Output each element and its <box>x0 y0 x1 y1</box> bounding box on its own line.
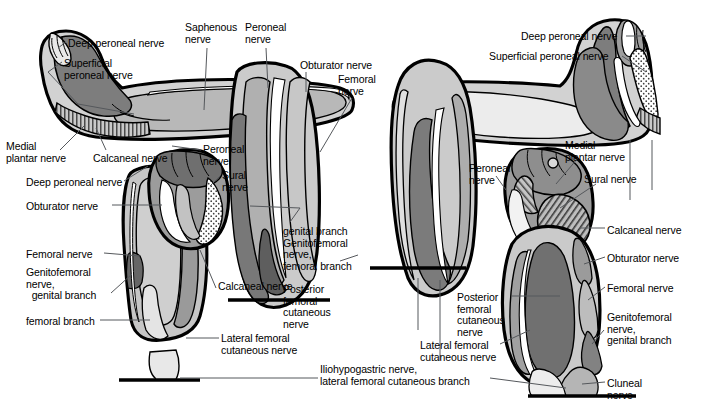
label-peroneal-nerve-top: Peroneal nerve <box>245 22 286 45</box>
label-peroneal-nerve-right: Peroneal nerve <box>469 163 510 186</box>
label-deep-peroneal-nerve-left2: Deep peroneal nerve <box>26 177 122 189</box>
label-femoral-nerve-left: Femoral nerve <box>26 249 92 261</box>
label-peroneal-nerve-mid-left: Peroneal nerve <box>203 144 244 167</box>
right-posterior-femoral-cutaneous-field <box>525 243 574 378</box>
label-medial-plantar-nerve-right: Medial plantar nerve <box>565 140 625 163</box>
right-plantar-great-toe-mark <box>548 158 558 168</box>
label-medial-plantar-nerve-left: Medial plantar nerve <box>6 141 66 164</box>
label-saphenous-nerve: Saphenous nerve <box>185 22 237 45</box>
label-genitofemoral-genital-left: Genitofemoral nerve, genital branch <box>26 267 96 302</box>
label-femoral-branch-left: femoral branch <box>26 316 95 328</box>
left-foot-base <box>149 350 179 379</box>
left-thigh-genitofemoral-genital-field <box>127 252 144 288</box>
label-obturator-nerve-top: Obturator nerve <box>300 60 372 72</box>
label-genitofemoral-genital-right: Genitofemoral nerve, genital branch <box>607 312 672 347</box>
label-calcaneal-nerve-right: Calcaneal nerve <box>607 225 681 237</box>
anatomy-figure: Deep peroneal nerve Superficial peroneal… <box>0 0 709 411</box>
label-cluneal-nerve-right: Cluneal nerve <box>607 378 642 401</box>
label-calcaneal-nerve-left: Calcaneal nerve <box>93 153 167 165</box>
label-obturator-nerve-right: Obturator nerve <box>607 253 679 265</box>
label-femoral-nerve-right: Femoral nerve <box>607 283 673 295</box>
label-superficial-peroneal-nerve-tl: Superficial peroneal nerve <box>64 58 133 81</box>
label-lateral-femoral-cutaneous-right: Lateral femoral cutaneous nerve <box>420 340 496 363</box>
label-femoral-nerve-top: Femoral nerve <box>338 74 376 97</box>
label-posterior-femoral-cutaneous-right: Posterior femoral cutaneous nerve <box>457 292 505 338</box>
label-superficial-peroneal-nerve-tr: Superficial peroneal nerve <box>489 51 608 63</box>
label-obturator-nerve-left: Obturator nerve <box>26 201 98 213</box>
label-calcaneal-nerve-center: Calcaneal nerve <box>218 281 292 293</box>
label-deep-peroneal-nerve-tr: Deep peroneal nerve <box>521 31 617 43</box>
label-sural-nerve-right: Sural nerve <box>584 174 637 186</box>
label-deep-peroneal-nerve-tl: Deep peroneal nerve <box>68 38 164 50</box>
label-lateral-femoral-cutaneous-left: Lateral femoral cutaneous nerve <box>221 333 297 356</box>
label-genital-branch-center: genital branch Genitofemoral nerve, femo… <box>283 226 352 272</box>
label-posterior-femoral-cutaneous-center: Posterior femoral cutaneous nerve <box>283 284 331 330</box>
label-iliohypogastric-nerve: Iliohypogastric nerve, lateral femoral c… <box>320 364 470 387</box>
label-sural-nerve-left: Sural nerve <box>222 170 248 193</box>
